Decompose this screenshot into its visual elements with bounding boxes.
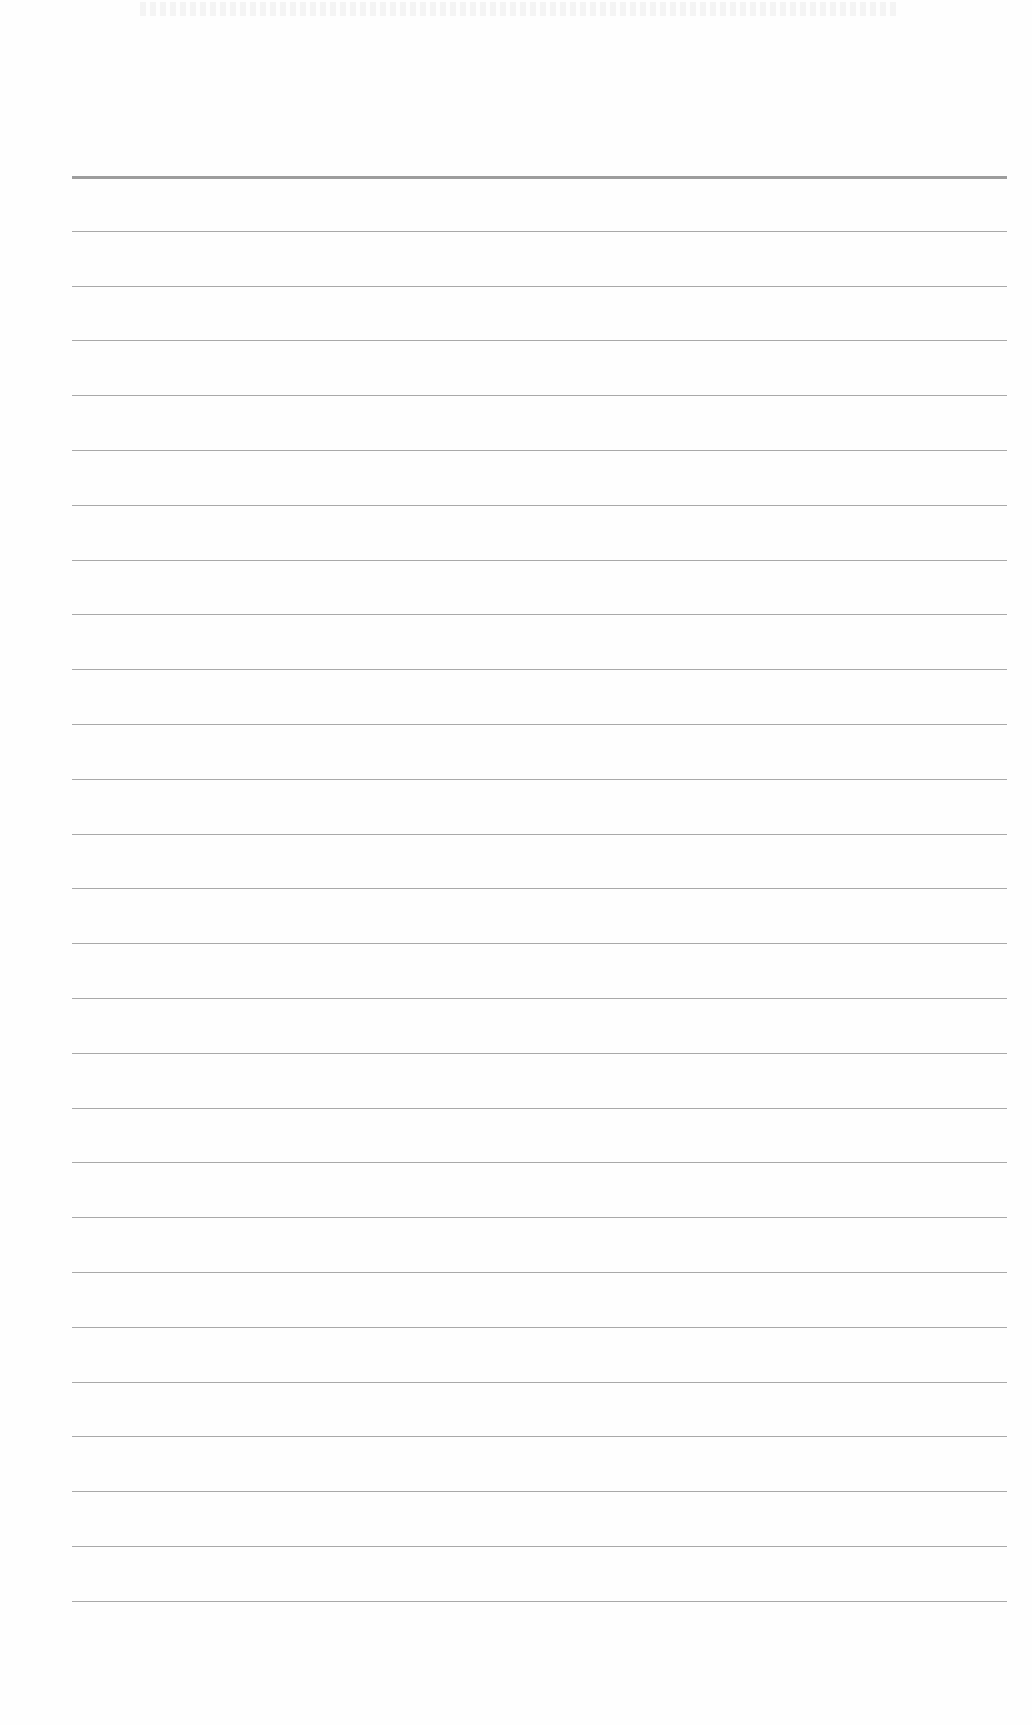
ruled-line	[72, 231, 1007, 232]
ruled-line	[72, 1601, 1007, 1602]
ruled-line	[72, 1162, 1007, 1163]
ruled-line	[72, 176, 1007, 179]
ruled-line	[72, 340, 1007, 341]
ruled-line	[72, 1327, 1007, 1328]
ruled-line	[72, 834, 1007, 835]
ruled-line	[72, 779, 1007, 780]
ruled-line	[72, 943, 1007, 944]
ruled-line	[72, 286, 1007, 287]
ruled-line	[72, 724, 1007, 725]
ruled-line	[72, 1382, 1007, 1383]
ruled-line	[72, 888, 1007, 889]
ruled-line	[72, 1108, 1007, 1109]
ruled-line	[72, 1217, 1007, 1218]
lined-paper-page	[0, 0, 1032, 1725]
bleed-through-text	[140, 2, 900, 16]
ruled-line	[72, 669, 1007, 670]
ruled-line	[72, 450, 1007, 451]
ruled-line	[72, 1546, 1007, 1547]
ruled-line	[72, 1272, 1007, 1273]
ruled-line	[72, 560, 1007, 561]
ruled-line	[72, 505, 1007, 506]
ruled-line	[72, 1053, 1007, 1054]
ruled-line	[72, 1491, 1007, 1492]
ruled-line	[72, 395, 1007, 396]
ruled-line	[72, 614, 1007, 615]
ruled-line	[72, 1436, 1007, 1437]
ruled-line	[72, 998, 1007, 999]
